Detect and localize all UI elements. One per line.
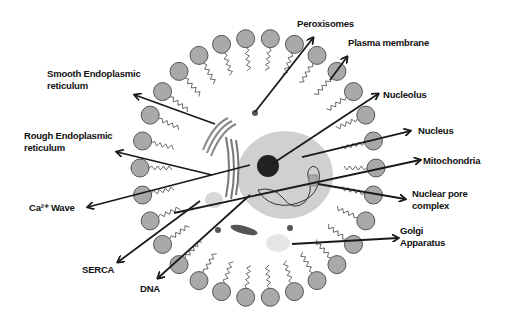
- lipid-tail: [265, 48, 271, 71]
- lipid-tail: [170, 97, 187, 112]
- arrow-nuclear-pore: [318, 184, 405, 199]
- label-serca: SERCA: [82, 264, 114, 276]
- label-golgi: GolgiApparatus: [400, 225, 445, 249]
- lipid-head: [308, 46, 326, 64]
- lipid-head: [154, 235, 172, 253]
- lipid-tail: [158, 118, 178, 130]
- lipid-tail: [299, 63, 313, 82]
- label-nucleolus: Nucleolus: [383, 89, 427, 101]
- label-nucleus: Nucleus: [418, 125, 454, 137]
- lipid-head: [190, 272, 208, 290]
- lipid-tail: [284, 261, 292, 283]
- label-plasma-membrane: Plasma membrane: [348, 37, 429, 49]
- lipid-head: [357, 212, 375, 230]
- lipid-head: [141, 106, 159, 124]
- lipid-tail: [185, 78, 200, 96]
- lipid-head: [213, 283, 231, 301]
- lipid-head: [190, 46, 208, 64]
- lipid-head: [141, 212, 159, 230]
- arrow-peroxisomes: [255, 38, 313, 112]
- vesicle-shape: [287, 225, 293, 231]
- golgi-shape: [266, 234, 290, 252]
- label-nuclear-pore: Nuclear porecomplex: [412, 188, 468, 212]
- label-smooth-er: Smooth Endoplasmicreticulum: [47, 68, 141, 92]
- lipid-head: [328, 256, 346, 274]
- lipid-tail: [151, 141, 173, 149]
- lipid-head: [237, 288, 255, 306]
- lipid-head: [213, 35, 231, 53]
- smooth-er-shape: [203, 118, 236, 156]
- lipid-tail: [245, 266, 251, 289]
- cell-diagram: PeroxisomesPlasma membraneSmooth Endopla…: [0, 0, 516, 325]
- lipid-head: [170, 62, 188, 80]
- mitochondrion-shape: [229, 223, 258, 238]
- lipid-tail: [265, 265, 270, 288]
- lipid-head: [154, 83, 172, 101]
- lipid-head: [134, 132, 152, 150]
- lipid-head: [344, 235, 362, 253]
- lipid-tail: [170, 226, 190, 239]
- organelles: [203, 110, 333, 252]
- lipid-tail: [245, 48, 250, 71]
- lipid-head: [261, 30, 279, 48]
- lipid-tail: [223, 262, 233, 283]
- label-rough-er: Rough Endoplasmicreticulum: [24, 130, 112, 154]
- lipid-tail: [203, 254, 217, 273]
- lipid-head: [308, 272, 326, 290]
- lipid-tail: [224, 53, 232, 75]
- label-peroxisomes: Peroxisomes: [297, 18, 354, 30]
- lipid-tail: [344, 166, 367, 170]
- lipid-tail: [301, 252, 313, 273]
- lipid-tail: [337, 206, 357, 218]
- lipid-tail: [149, 166, 172, 170]
- lipid-head: [261, 288, 279, 306]
- lipid-tail: [185, 242, 202, 258]
- lipid-head: [237, 30, 255, 48]
- arrow-ca-wave: [88, 165, 250, 207]
- label-ca-wave: Ca²⁺ Wave: [29, 202, 75, 214]
- label-dna: DNA: [140, 283, 160, 295]
- lipid-tail: [204, 63, 216, 84]
- lipid-head: [285, 35, 303, 53]
- lipid-tail: [326, 97, 346, 110]
- vesicle-shape: [215, 227, 221, 233]
- lipid-head: [285, 283, 303, 301]
- lipid-head: [344, 83, 362, 101]
- lipid-tail: [314, 78, 331, 94]
- label-mitochondria: Mitochondria: [423, 155, 480, 167]
- lipid-head: [357, 106, 375, 124]
- lipid-head: [131, 159, 149, 177]
- lipid-tail: [329, 224, 346, 239]
- nucleolus-shape: [257, 155, 279, 177]
